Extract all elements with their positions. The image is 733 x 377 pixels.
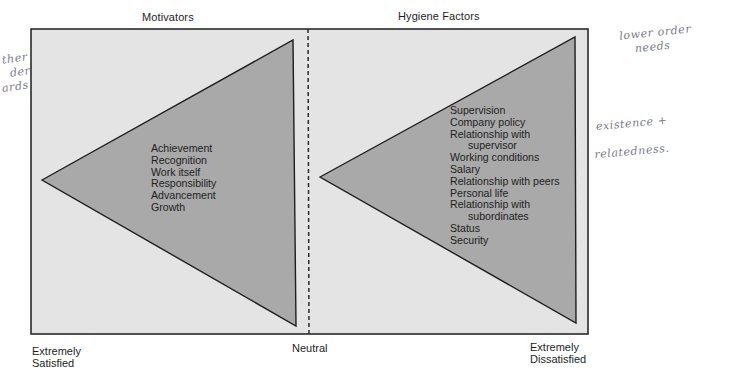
neutral-label: Neutral <box>292 342 327 354</box>
motivator-item: Recognition <box>151 155 216 167</box>
extremely-satisfied-label: Extremely Satisfied <box>32 345 81 369</box>
motivators-heading: Motivators <box>142 11 194 23</box>
motivators-list: Achievement Recognition Work itself Resp… <box>151 143 216 214</box>
handwritten-note-left: ther der ards <box>0 50 33 96</box>
extremely-dissatisfied-label: Extremely Dissatisfied <box>530 341 586 365</box>
hygiene-item: Security <box>450 235 560 247</box>
hygiene-item: Relationship with peers <box>450 176 560 188</box>
hygiene-factors-heading: Hygiene Factors <box>398 10 480 22</box>
hygiene-item: Company policy <box>450 117 560 129</box>
motivator-item: Growth <box>151 202 216 214</box>
handwritten-note-existence-relatedness: existence + relatedness. <box>591 107 671 169</box>
hygiene-factors-list: Supervision Company policy Relationship … <box>450 105 560 247</box>
hygiene-item: Status <box>450 223 560 235</box>
hygiene-item: Salary <box>450 164 560 176</box>
